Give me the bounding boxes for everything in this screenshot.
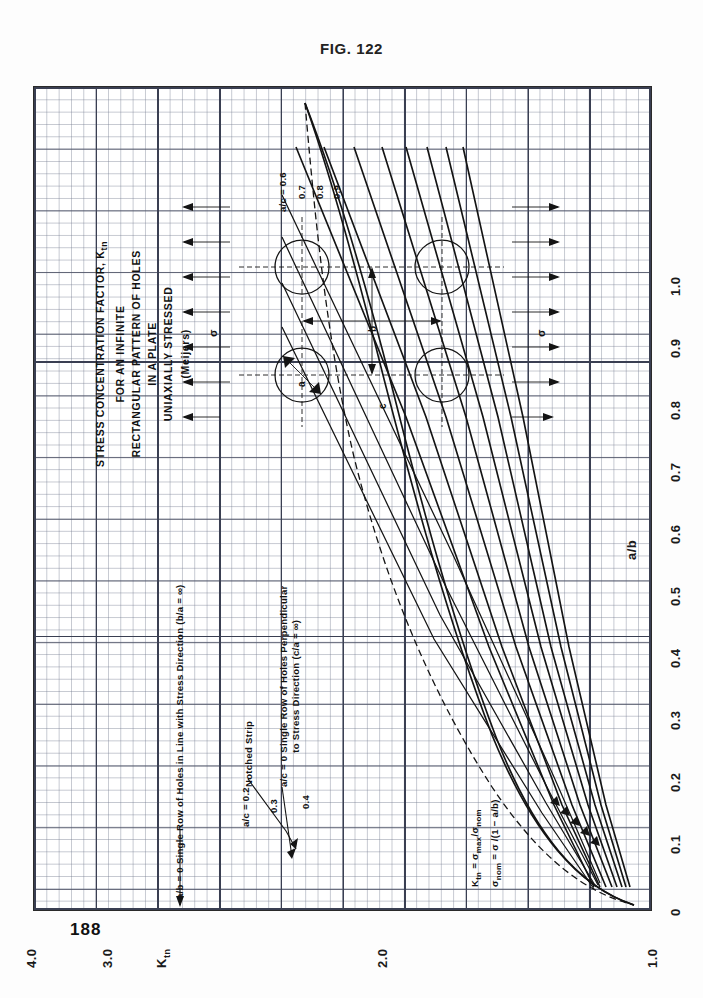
formula-line-2: σnom = σ /(1 − a/b) [486,799,506,887]
annotation-ac-zero: a/c = 0 Single Row of Holes Perpendicula… [278,585,302,787]
curve-ac-0 [305,103,634,905]
ytick-4.0: 4.0 [24,948,41,968]
formula-sub-tn: tn [474,872,483,880]
ytick-2.0: 2.0 [375,948,392,968]
curve-ac-0.4 [354,147,606,887]
curve-label-ac-0.2: a/c = 0.2 [240,787,252,827]
curve-label-ac-0.3: 0.3 [268,799,280,813]
xtick-0.5: 0.5 [668,586,685,606]
formula-block: Ktn = σmax/σnom σnom = σ /(1 − a/b) [466,799,506,887]
formula-sub-max: max [474,837,483,854]
leader-ac-zero [282,787,292,857]
dim-c-arrow [302,317,313,325]
curve-ab-0-dashed [305,103,634,905]
curves-svg [34,87,651,910]
ytick-1.0: 1.0 [645,948,662,968]
chart-title-line-4: IN A PLATE [144,241,160,467]
formula-sub-nom: nom [474,809,483,827]
chart-title-block: STRESS CONCENTRATION FACTOR, Ktn FOR AN … [92,241,193,467]
curve-ac-0.9 [463,147,630,887]
curve-label-ac-0.6: 0.7 [296,185,308,199]
diagram-label-a: a [296,381,309,387]
xtick-0.1: 0.1 [668,834,685,854]
xtick-0.3: 0.3 [668,710,685,730]
formula-line-1: Ktn = σmax/σnom [466,799,486,887]
dim-b-arrow [368,364,376,375]
inset-hole-pattern-diagram [182,203,560,427]
xtick-1.0: 1.0 [668,276,685,296]
diagram-label-sigma-left: σ [206,329,220,337]
curve-ac-0.7 [427,147,622,887]
yaxis-title: Ktn [154,949,173,968]
xtick-0.8: 0.8 [668,400,685,420]
xtick-0: 0 [668,908,685,916]
annotation-notched-strip: Notched Strip [243,721,255,787]
chart-title-subscript: tn [99,241,109,251]
diagram-label-sigma-right: σ [534,329,548,337]
page-number: 188 [70,920,101,940]
figure-caption: FIG. 122 [0,40,703,57]
curve-ac-0.3 [324,147,600,887]
curve-label-ac-0.5: a/c = 0.6 [277,172,289,212]
annotation-ac-zero-line-2: to Stress Direction (c/a = ∞) [290,585,302,787]
xaxis-title: a/b [624,540,641,560]
curve-notched-strip [305,103,634,905]
curve-label-ac-0.8: 0.9 [331,185,343,199]
ytick-3.0: 3.0 [100,948,117,968]
diagram-label-b: b [367,326,380,332]
chart-plot-area: STRESS CONCENTRATION FACTOR, Ktn FOR AN … [33,86,652,911]
chart-title-line-2: FOR AN INFINITE [112,241,128,467]
chart-title-line-5: UNIAXIALLY STRESSED [160,241,176,467]
figure-page: FIG. 122 188 [0,0,703,998]
formula-sub-nom-2: nom [494,863,503,881]
chart-title-line-1: STRESS CONCENTRATION FACTOR, Ktn [92,241,112,467]
annotation-ac-zero-line-1: a/c = 0 Single Row of Holes Perpendicula… [278,585,290,787]
diagram-label-c: c [377,403,390,409]
xtick-0.2: 0.2 [668,772,685,792]
xtick-0.6: 0.6 [668,524,685,544]
xtick-0.7: 0.7 [668,462,685,482]
chart-title-line-6: (Meijers) [177,241,193,467]
leader-notched-strip [248,779,296,849]
xtick-0.9: 0.9 [668,338,685,358]
curve-label-ac-0.7: 0.8 [314,185,326,199]
yaxis-title-subscript: tn [162,949,172,959]
curve-ac-0.6 [406,147,617,887]
xtick-0.4: 0.4 [668,648,685,668]
chart-title-line-3: RECTANGULAR PATTERN OF HOLES [128,241,144,467]
annotation-ab-zero: a/b = 0 Single Row of Holes in Line with… [174,584,186,899]
curve-ac-0.2 [296,147,594,887]
curve-label-ac-0.4: 0.4 [300,795,312,809]
